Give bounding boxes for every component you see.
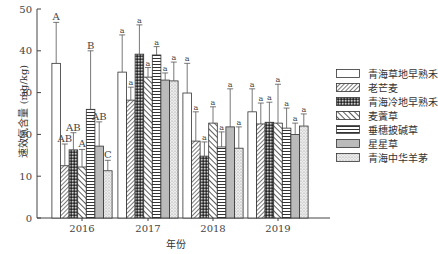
bar [104,171,113,218]
legend-swatch-icon [336,111,360,120]
y-tick-label: 50 [19,4,32,15]
bar [78,167,87,218]
bar [135,54,144,218]
bar [209,123,218,218]
legend-label: 垂穗披碱草 [368,122,418,137]
significance-letter: a [193,103,198,112]
x-tick-label: 2017 [135,223,160,234]
significance-letter: a [228,80,233,89]
bar [282,128,291,218]
legend-item: 麦薲草 [336,108,438,122]
bars: AABABABABCaaaaaaaaaaaaaaaaaaaaa [52,11,309,218]
y-tick-label: 0 [26,213,32,224]
legend-item: 青海冷地早熟禾 [336,94,438,108]
bar [274,123,283,218]
significance-letter: a [202,133,207,142]
significance-letter: a [137,16,142,25]
legend-swatch-icon [336,139,360,148]
bar [265,122,274,218]
significance-letter: A [52,11,61,22]
significance-letter: AB [91,111,107,122]
bar [144,77,153,218]
bar [200,156,209,218]
bar [86,109,95,218]
significance-letter: a [163,64,168,73]
significance-letter: B [87,40,94,51]
legend-swatch-icon [336,125,360,134]
bar [170,81,179,218]
y-tick-label: 10 [19,171,32,182]
x-tick-label: 2018 [200,223,225,234]
legend-swatch-icon [336,83,360,92]
legend-item: 星星草 [336,136,438,150]
significance-letter: a [236,118,241,127]
bar [192,141,201,218]
significance-letter: a [301,105,306,114]
significance-letter: C [104,149,112,160]
legend-label: 老芒麦 [368,80,398,95]
x-tick-label: 2016 [69,223,94,234]
significance-letter: A [77,138,86,149]
y-tick-label: 40 [19,45,32,56]
significance-letter: a [154,38,159,47]
legend-label: 星星草 [368,136,398,151]
bar [217,147,226,218]
legend-swatch-icon [336,69,360,78]
legend-swatch-icon [336,153,360,162]
significance-letter: a [185,54,190,63]
bar [152,55,161,218]
y-axis-title: 速效氮含量 (mg/kg) [15,78,30,158]
bar [300,126,309,218]
significance-letter: a [219,123,224,132]
bar [183,93,192,218]
legend-item: 老芒麦 [336,80,438,94]
bar [61,166,70,218]
significance-letter: AB [65,122,81,133]
significance-letter: a [211,98,216,107]
bar [118,72,127,218]
significance-letter: a [128,78,133,87]
legend-item: 垂穗披碱草 [336,122,438,136]
x-axis-title: 年份 [166,236,186,251]
legend-label: 青海冷地早熟禾 [368,94,438,109]
legend-item: 青海中华羊茅 [336,150,438,164]
significance-letter: a [293,114,298,123]
legend-item: 青海草地早熟禾 [336,66,438,80]
bar [95,146,104,218]
significance-letter: AB [57,133,73,144]
significance-letter: a [120,26,125,35]
significance-letter: a [146,59,151,68]
bar [235,148,244,218]
bar [161,80,170,218]
bar [257,124,266,218]
significance-letter: a [171,53,176,62]
x-tick-label: 2019 [265,223,290,234]
bar [69,150,78,218]
legend: 青海草地早熟禾老芒麦青海冷地早熟禾麦薲草垂穗披碱草星星草青海中华羊茅 [336,66,438,164]
significance-letter: a [258,94,263,103]
bar [248,112,257,218]
significance-letter: a [284,99,289,108]
legend-label: 麦薲草 [368,108,398,123]
bar [291,134,300,218]
significance-letter: a [276,75,281,84]
legend-label: 青海草地早熟禾 [368,66,438,81]
significance-letter: a [267,93,272,102]
bar [127,100,136,218]
bar [226,127,235,218]
significance-letter: a [250,80,255,89]
legend-label: 青海中华羊茅 [368,150,428,165]
legend-swatch-icon [336,97,360,106]
